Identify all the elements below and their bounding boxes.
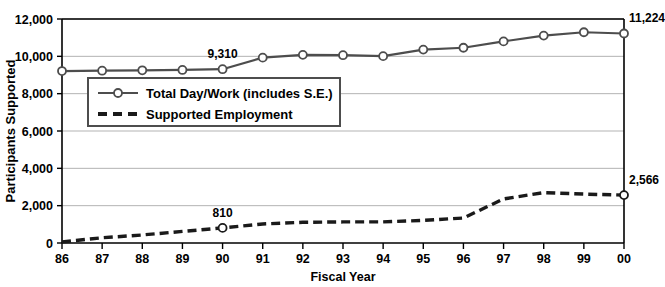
data-point-marker bbox=[339, 51, 347, 59]
data-point-marker bbox=[459, 44, 467, 52]
data-label: 9,310 bbox=[208, 47, 238, 61]
y-tick-label: 10,000 bbox=[15, 50, 53, 64]
y-tick-label: 6,000 bbox=[22, 125, 53, 139]
x-tick-label: 87 bbox=[95, 252, 109, 266]
data-point-marker bbox=[259, 54, 267, 62]
data-point-marker bbox=[379, 52, 387, 60]
x-tick-label: 88 bbox=[135, 252, 149, 266]
legend-marker-icon bbox=[114, 89, 122, 97]
data-point-marker bbox=[620, 191, 628, 199]
y-tick-label: 8,000 bbox=[22, 87, 53, 101]
legend-item-label[interactable]: Total Day/Work (includes S.E.) bbox=[146, 86, 333, 101]
data-point-marker bbox=[98, 67, 106, 75]
data-point-marker bbox=[178, 66, 186, 74]
y-tick-label: 12,000 bbox=[15, 13, 53, 27]
data-label: 810 bbox=[213, 206, 233, 220]
x-tick-label: 91 bbox=[256, 252, 270, 266]
data-point-marker bbox=[500, 37, 508, 45]
legend[interactable]: Total Day/Work (includes S.E.)Supported … bbox=[88, 78, 340, 126]
x-tick-label: 92 bbox=[296, 252, 310, 266]
x-tick-label: 95 bbox=[416, 252, 430, 266]
x-tick-label: 00 bbox=[617, 252, 631, 266]
x-tick-label: 93 bbox=[336, 252, 350, 266]
chart-container: 02,0004,0006,0008,00010,00012,000 868788… bbox=[0, 0, 665, 287]
x-tick-label: 89 bbox=[175, 252, 189, 266]
legend-item-label[interactable]: Supported Employment bbox=[146, 107, 293, 122]
data-point-marker bbox=[580, 28, 588, 36]
x-axis-tick-labels: 868788899091929394959697989900 bbox=[55, 252, 631, 266]
data-point-marker bbox=[299, 51, 307, 59]
y-tick-label: 2,000 bbox=[22, 199, 53, 213]
x-tick-label: 94 bbox=[376, 252, 390, 266]
data-label: 11,224 bbox=[629, 11, 665, 25]
line-chart: 02,0004,0006,0008,00010,00012,000 868788… bbox=[0, 0, 665, 287]
x-axis-title: Fiscal Year bbox=[310, 270, 375, 284]
y-tick-label: 4,000 bbox=[22, 162, 53, 176]
data-point-marker bbox=[58, 67, 66, 75]
data-label: 2,566 bbox=[629, 173, 659, 187]
x-tick-label: 98 bbox=[537, 252, 551, 266]
y-tick-label: 0 bbox=[46, 237, 53, 251]
x-tick-label: 96 bbox=[456, 252, 470, 266]
x-tick-label: 97 bbox=[497, 252, 511, 266]
data-point-marker bbox=[219, 224, 227, 232]
data-point-marker bbox=[219, 65, 227, 73]
x-tick-label: 86 bbox=[55, 252, 69, 266]
data-point-marker bbox=[138, 66, 146, 74]
x-tick-label: 99 bbox=[577, 252, 591, 266]
data-point-marker bbox=[540, 32, 548, 40]
x-tick-label: 90 bbox=[216, 252, 230, 266]
data-point-marker bbox=[620, 29, 628, 37]
y-axis-title: Participants Supported bbox=[3, 59, 18, 202]
data-point-marker bbox=[419, 46, 427, 54]
chart-background bbox=[0, 0, 665, 287]
